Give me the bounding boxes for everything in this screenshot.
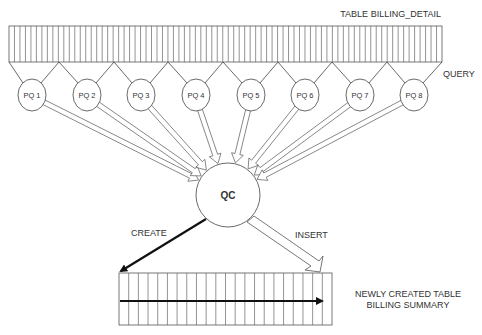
pq-node-6: PQ 6	[291, 79, 319, 111]
qc-label: QC	[221, 190, 236, 201]
pq-node-7: PQ 7	[346, 79, 374, 111]
pq-label: PQ 5	[242, 91, 259, 100]
target-table-label-line2: BILLING SUMMARY	[367, 300, 450, 310]
pq-label: PQ 2	[78, 91, 95, 100]
target-table-label-line1: NEWLY CREATED TABLE	[355, 289, 461, 299]
create-label: CREATE	[131, 228, 167, 238]
pq-node-3: PQ 3	[127, 79, 155, 111]
pq-label: PQ 8	[405, 91, 422, 100]
pq-label: PQ 6	[296, 91, 313, 100]
diagram-canvas: TABLE BILLING_DETAIL QUERY PQ 1PQ 2PQ 3P…	[0, 0, 482, 335]
query-split-lines	[9, 62, 442, 83]
pq-label: PQ 4	[187, 91, 204, 100]
query-label: QUERY	[443, 69, 475, 79]
source-table-label: TABLE BILLING_DETAIL	[340, 9, 441, 19]
pq-node-2: PQ 2	[73, 79, 101, 111]
parallel-query-servers: PQ 1PQ 2PQ 3PQ 4PQ 5PQ 6PQ 7PQ 8	[18, 79, 428, 111]
pq-node-4: PQ 4	[182, 79, 210, 111]
create-arrow	[121, 219, 206, 271]
insert-arrow	[247, 216, 323, 272]
pq-node-8: PQ 8	[400, 79, 428, 111]
pq-label: PQ 7	[351, 91, 368, 100]
pq-node-1: PQ 1	[18, 79, 46, 111]
pq-label: PQ 1	[23, 91, 40, 100]
pq-label: PQ 3	[132, 91, 149, 100]
source-table	[9, 26, 442, 62]
query-coordinator: QC	[196, 163, 260, 227]
target-table	[119, 273, 332, 325]
insert-label: INSERT	[295, 230, 328, 240]
pq-node-5: PQ 5	[237, 79, 265, 111]
